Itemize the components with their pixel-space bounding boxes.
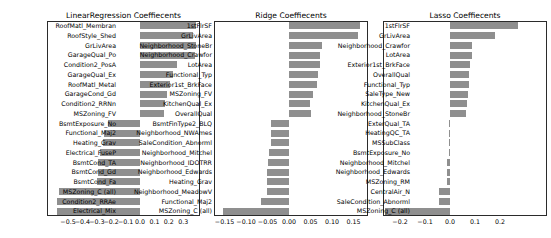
bar-lasso-salecondition-abnorml: [439, 198, 451, 205]
y-tick-label: MSZoning_FV: [170, 89, 212, 99]
y-tick-label: GrLivArea: [181, 31, 212, 41]
bar-lasso-bsmtexposure-no: [449, 149, 451, 156]
y-tick-label: Neighborhood_Crawfor: [140, 50, 212, 60]
bar-lasso-1stflrsf: [450, 22, 518, 29]
x-tick-label: 0.2: [495, 218, 505, 225]
y-tick-label: Neighborhood_Edwards: [138, 167, 212, 177]
y-tick-label: Electrical_Mix: [73, 206, 116, 216]
x-tick-label: −0.3: [89, 218, 104, 225]
x-tick-label: −0.4: [75, 218, 90, 225]
x-tick-label: 0.05: [303, 218, 317, 225]
y-tick-label: LotArea: [386, 50, 410, 60]
bar-ridge-neighborhood-stonebr: [289, 42, 322, 49]
bar-lasso-overallqual: [450, 71, 469, 78]
plot-area-ridge: [214, 21, 368, 216]
bar-lasso-saletype-new: [450, 91, 468, 98]
bar-lasso-lotarea: [450, 52, 472, 59]
bar-lasso-heatingqc-ta: [449, 130, 451, 137]
y-tick-label: SaleCondition_Abnorml: [139, 138, 212, 148]
bar-ridge-neighborhood-meadowv: [267, 188, 289, 195]
y-tick-label: Condition2_RRAe: [62, 197, 116, 207]
x-tick-label: 0.0: [135, 218, 145, 225]
bar-linearregression-condition2-rrnn: [140, 100, 165, 107]
x-tick-label: 0.10: [325, 218, 339, 225]
y-tick-label: RoofStyle_Shed: [67, 31, 116, 41]
x-tick-label: −0.1: [118, 218, 133, 225]
y-tick-label: BsmtExposure_No: [353, 148, 410, 158]
y-tick-label: GarageQual_Po: [68, 50, 116, 60]
y-tick-label: Neighborhood_Mitchel: [340, 158, 410, 168]
y-tick-label: Functional_Typ: [364, 80, 410, 90]
y-tick-label: GarageQual_Ex: [68, 70, 116, 80]
y-tick-label: Neighborhood_Edwards: [336, 167, 410, 177]
y-tick-label: BsmtExposure_No: [59, 119, 116, 129]
y-tick-label: ExterQual_TA: [368, 119, 410, 129]
x-tick-label: −0.05: [258, 218, 277, 225]
y-tick-label: MSSubClass: [372, 138, 410, 148]
bar-ridge-heating-grav: [267, 178, 289, 185]
bar-lasso-exterqual-ta: [449, 120, 451, 127]
y-tick-label: GrLivArea: [85, 41, 116, 51]
y-tick-label: MSZoning_FV: [74, 109, 116, 119]
y-tick-label: BsmtCond_Fa: [74, 177, 117, 187]
y-tick-label: MSZoning_C (all): [357, 206, 410, 216]
y-tick-label: Neighborhood_NWAmes: [136, 128, 212, 138]
y-tick-label: GarageCond_Gd: [65, 89, 116, 99]
bar-lasso-functional-typ: [450, 81, 469, 88]
bar-ridge-neighborhood-crawfor: [289, 52, 320, 59]
chart-title-linearregression: LinearRegression Coeffiecents: [47, 11, 200, 20]
bar-ridge-lotarea: [289, 61, 320, 68]
bar-lasso-centralair-n: [439, 188, 451, 195]
bar-ridge-salecondition-abnorml: [271, 139, 289, 146]
y-tick-label: 1stFlrSF: [187, 21, 212, 31]
bar-lasso-kitchenqual-ex: [450, 100, 467, 107]
bar-ridge-neighborhood-idotrr: [268, 159, 290, 166]
y-tick-label: Exterior1st_BrkFace: [149, 80, 212, 90]
x-tick-label: 0.0: [445, 218, 455, 225]
y-tick-label: MSZoning_C (all): [63, 187, 116, 197]
bar-ridge-grlivarea: [289, 32, 358, 39]
y-tick-label: Functional_Typ: [166, 70, 212, 80]
bar-lasso-neighborhood-edwards: [447, 169, 450, 176]
bar-linearregression-condition2-posa: [140, 61, 177, 68]
y-tick-label: RoofMatl_Membran: [55, 21, 116, 31]
bar-ridge-overallqual: [289, 110, 311, 117]
y-tick-label: Electrical_FuseP: [66, 148, 116, 158]
y-tick-label: RoofMatl_Metal: [68, 80, 116, 90]
bar-ridge-exterior1st-brkface: [289, 81, 317, 88]
bar-ridge-mszoning-c-all-: [223, 208, 289, 215]
y-tick-label: Condition2_RRNn: [61, 99, 116, 109]
bar-lasso-mssubclass: [449, 139, 451, 146]
y-tick-label: Heating_Grav: [73, 138, 116, 148]
y-tick-label: BsmtCond_Gd: [72, 167, 116, 177]
y-tick-label: SaleType_New: [365, 89, 410, 99]
x-tick-label: 0.2: [164, 218, 174, 225]
x-tick-label: −0.5: [60, 218, 75, 225]
x-tick-label: −0.10: [236, 218, 255, 225]
y-tick-label: SaleCondition_Abnorml: [337, 197, 410, 207]
bar-ridge-functional-maj2: [261, 198, 289, 205]
y-tick-label: Neighborhood_StoneBr: [337, 109, 410, 119]
y-tick-label: Exterior1st_BrkFace: [347, 60, 410, 70]
y-tick-label: OverallQual: [373, 70, 410, 80]
bar-linearregression-garagecond-gd: [140, 91, 167, 98]
y-tick-label: LotArea: [188, 60, 212, 70]
y-tick-label: KitchenQual_Ex: [163, 99, 212, 109]
y-tick-label: HeatingQC_TA: [365, 128, 410, 138]
bar-lasso-neighborhood-mitchel: [447, 159, 450, 166]
y-tick-label: Condition2_PosA: [64, 60, 116, 70]
bar-lasso-mszoning-rm: [447, 178, 450, 185]
y-tick-label: Neighborhood_MeadowV: [134, 187, 212, 197]
x-tick-label: −0.2: [104, 218, 119, 225]
y-tick-label: OverallQual: [175, 109, 212, 119]
bar-lasso-neighborhood-stonebr: [450, 110, 466, 117]
y-tick-label: BsmtCond_TA: [73, 158, 116, 168]
chart-title-ridge: Ridge Coeffiecents: [214, 11, 368, 20]
y-tick-label: Neighborhood_Mitchel: [142, 148, 212, 158]
y-tick-label: 1stFlrSF: [385, 21, 410, 31]
bar-ridge-neighborhood-edwards: [267, 169, 289, 176]
y-tick-label: Neighborhood_StoneBr: [139, 41, 212, 51]
bar-ridge-bsmtfintype2-blq: [271, 120, 289, 127]
bar-ridge-kitchenqual-ex: [289, 100, 310, 107]
y-tick-label: MSZoning_C (all): [159, 206, 212, 216]
